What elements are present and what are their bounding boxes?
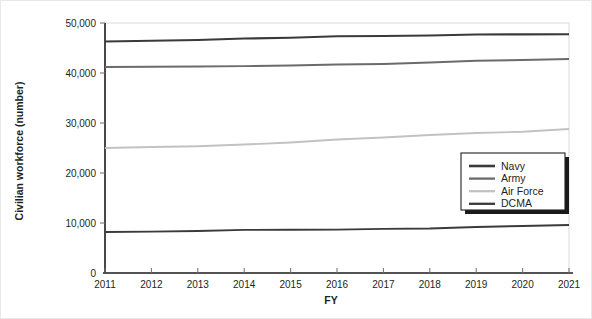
y-tick-label: 20,000 (65, 168, 96, 179)
legend-label: Army (501, 172, 526, 184)
series-line-army (105, 59, 569, 67)
x-tick-label: 2021 (558, 279, 581, 290)
legend-label: Air Force (501, 185, 544, 197)
series-line-air-force (105, 129, 569, 148)
series-line-dcma (105, 225, 569, 232)
x-tick-label: 2013 (187, 279, 210, 290)
x-tick-label: 2012 (140, 279, 163, 290)
y-tick-label: 40,000 (65, 68, 96, 79)
x-axis-tick-labels: 2011201220132014201520162017201820192020… (94, 279, 580, 290)
x-axis-title: FY (324, 294, 337, 306)
y-axis-title: Civilian workforce (number) (13, 82, 25, 221)
y-tick-label: 0 (90, 268, 96, 279)
x-tick-label: 2019 (465, 279, 488, 290)
chart-legend: NavyArmyAir ForceDCMA (461, 153, 569, 214)
y-tick-label: 10,000 (65, 218, 96, 229)
y-tick-label: 50,000 (65, 18, 96, 29)
x-tick-label: 2015 (279, 279, 302, 290)
legend-label: Navy (501, 160, 526, 172)
y-tick-label: 30,000 (65, 118, 96, 129)
x-tick-label: 2016 (326, 279, 349, 290)
x-tick-label: 2020 (511, 279, 534, 290)
chart-figure: 010,00020,00030,00040,00050,000 20112012… (0, 0, 592, 319)
legend-label: DCMA (501, 197, 532, 209)
series-line-navy (105, 34, 569, 41)
y-axis-tick-labels: 010,00020,00030,00040,00050,000 (65, 18, 96, 279)
x-tick-label: 2014 (233, 279, 256, 290)
x-tick-label: 2011 (94, 279, 116, 290)
line-chart-svg: 010,00020,00030,00040,00050,000 20112012… (1, 1, 592, 319)
x-tick-label: 2017 (372, 279, 395, 290)
x-tick-label: 2018 (419, 279, 442, 290)
